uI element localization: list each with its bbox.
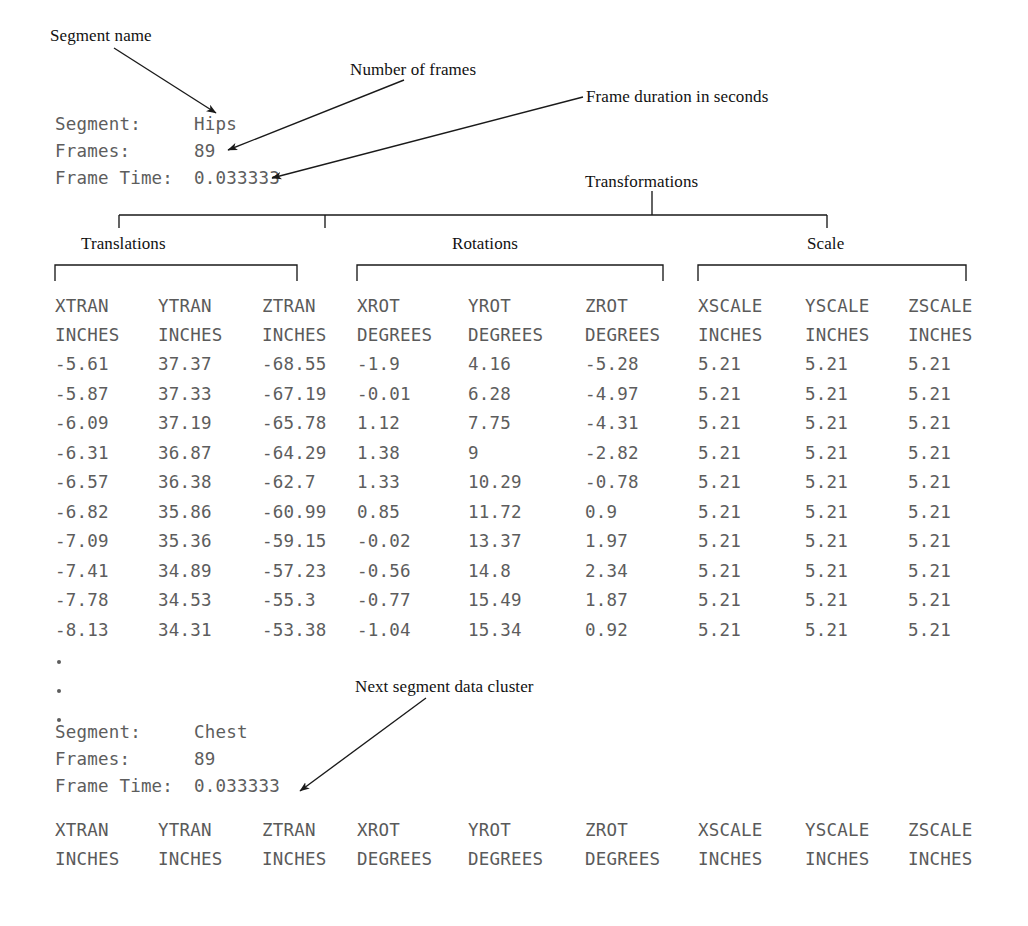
data-cell-r4-c6: 5.21 [698,472,741,492]
column-header-ztran: ZTRAN [262,820,316,840]
data-cell-r8-c2: -55.3 [262,590,316,610]
data-cell-r2-c3: 1.12 [357,413,400,433]
segment-two-value: Chest [194,722,248,742]
translations-group-bracket [55,265,297,281]
annotation-next-segment: Next segment data cluster [355,677,534,697]
column-header-xtran: XTRAN [55,820,109,840]
data-cell-r7-c8: 5.21 [908,561,951,581]
column-header-xscale: XSCALE [698,820,762,840]
segment-one-value: Hips [194,114,237,134]
data-cell-r5-c0: -6.82 [55,502,109,522]
column-header-xscale: XSCALE [698,296,762,316]
data-cell-r1-c5: -4.97 [585,384,639,404]
frames-one-value: 89 [194,141,215,161]
column-header-xtran: XTRAN [55,296,109,316]
data-cell-r4-c4: 10.29 [468,472,522,492]
column-header-ytran: YTRAN [158,820,212,840]
data-cell-r3-c5: -2.82 [585,443,639,463]
data-cell-r3-c6: 5.21 [698,443,741,463]
data-cell-r2-c7: 5.21 [805,413,848,433]
data-cell-r8-c0: -7.78 [55,590,109,610]
column-unit-zrot: DEGREES [585,849,660,869]
data-cell-r5-c1: 35.86 [158,502,212,522]
data-cell-r3-c7: 5.21 [805,443,848,463]
data-cell-r7-c6: 5.21 [698,561,741,581]
column-unit-ytran: INCHES [158,325,222,345]
data-cell-r2-c1: 37.19 [158,413,212,433]
arrow-segment-name [114,48,216,113]
frame-time-one-value: 0.033333 [194,168,280,188]
data-cell-r8-c7: 5.21 [805,590,848,610]
data-cell-r6-c3: -0.02 [357,531,411,551]
data-cell-r0-c1: 37.37 [158,354,212,374]
frame-time-two-value: 0.033333 [194,776,280,796]
continuation-dot [57,660,61,664]
continuation-dot [57,689,61,693]
data-cell-r0-c3: -1.9 [357,354,400,374]
data-cell-r8-c4: 15.49 [468,590,522,610]
data-cell-r5-c7: 5.21 [805,502,848,522]
annotation-frame-duration: Frame duration in seconds [586,87,768,107]
data-cell-r9-c6: 5.21 [698,620,741,640]
annotation-translations: Translations [81,234,166,254]
column-unit-xscale: INCHES [698,325,762,345]
data-cell-r1-c4: 6.28 [468,384,511,404]
transformations-tree-bracket [119,191,827,228]
data-cell-r4-c0: -6.57 [55,472,109,492]
data-cell-r0-c2: -68.55 [262,354,326,374]
data-cell-r3-c1: 36.87 [158,443,212,463]
frames-one-label: Frames: [55,141,130,161]
column-unit-yrot: DEGREES [468,325,543,345]
data-cell-r4-c7: 5.21 [805,472,848,492]
column-unit-zscale: INCHES [908,849,972,869]
data-cell-r0-c4: 4.16 [468,354,511,374]
data-cell-r6-c5: 1.97 [585,531,628,551]
data-cell-r5-c3: 0.85 [357,502,400,522]
frames-two-value: 89 [194,749,215,769]
data-cell-r1-c0: -5.87 [55,384,109,404]
arrow-frame-duration [272,97,583,178]
column-header-zscale: ZSCALE [908,820,972,840]
data-cell-r5-c2: -60.99 [262,502,326,522]
data-cell-r3-c0: -6.31 [55,443,109,463]
data-cell-r5-c6: 5.21 [698,502,741,522]
data-cell-r5-c5: 0.9 [585,502,617,522]
column-header-yscale: YSCALE [805,296,869,316]
column-unit-xscale: INCHES [698,849,762,869]
data-cell-r8-c8: 5.21 [908,590,951,610]
data-cell-r6-c7: 5.21 [805,531,848,551]
data-cell-r1-c2: -67.19 [262,384,326,404]
data-cell-r2-c0: -6.09 [55,413,109,433]
data-cell-r3-c8: 5.21 [908,443,951,463]
data-cell-r1-c8: 5.21 [908,384,951,404]
data-cell-r2-c4: 7.75 [468,413,511,433]
annotation-number-of-frames: Number of frames [350,60,476,80]
data-cell-r3-c3: 1.38 [357,443,400,463]
data-cell-r6-c6: 5.21 [698,531,741,551]
data-cell-r5-c4: 11.72 [468,502,522,522]
data-cell-r8-c5: 1.87 [585,590,628,610]
data-cell-r0-c0: -5.61 [55,354,109,374]
data-cell-r0-c7: 5.21 [805,354,848,374]
column-header-yrot: YROT [468,820,511,840]
data-cell-r9-c3: -1.04 [357,620,411,640]
data-cell-r0-c5: -5.28 [585,354,639,374]
data-cell-r2-c2: -65.78 [262,413,326,433]
data-cell-r9-c1: 34.31 [158,620,212,640]
annotation-scale: Scale [807,234,844,254]
data-cell-r8-c3: -0.77 [357,590,411,610]
data-cell-r4-c1: 36.38 [158,472,212,492]
column-unit-yrot: DEGREES [468,849,543,869]
column-unit-ztran: INCHES [262,849,326,869]
column-unit-xtran: INCHES [55,849,119,869]
data-cell-r6-c8: 5.21 [908,531,951,551]
column-header-zrot: ZROT [585,296,628,316]
data-cell-r6-c1: 35.36 [158,531,212,551]
segment-one-label: Segment: [55,114,141,134]
data-cell-r7-c5: 2.34 [585,561,628,581]
data-cell-r7-c4: 14.8 [468,561,511,581]
data-cell-r0-c6: 5.21 [698,354,741,374]
column-header-ytran: YTRAN [158,296,212,316]
column-header-ztran: ZTRAN [262,296,316,316]
data-cell-r4-c2: -62.7 [262,472,316,492]
